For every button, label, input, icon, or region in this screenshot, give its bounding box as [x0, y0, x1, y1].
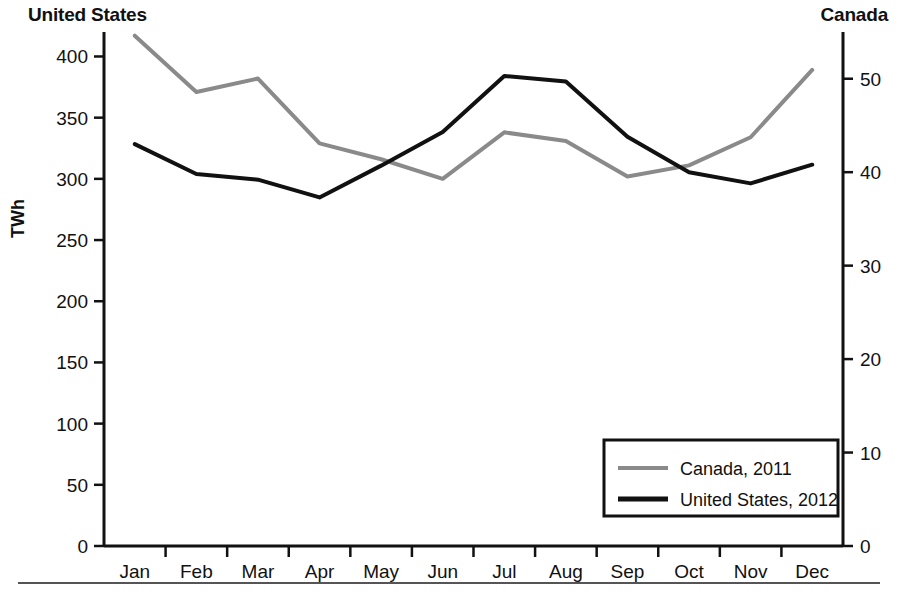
left-tick-label: 250 — [56, 230, 88, 251]
left-tick-label: 50 — [67, 475, 88, 496]
legend-label-0: Canada, 2011 — [680, 459, 792, 479]
x-axis-month-label: Feb — [180, 561, 213, 582]
x-axis-month-label: Jul — [492, 561, 516, 582]
right-tick-label: 30 — [860, 256, 881, 277]
right-tick-label: 10 — [860, 443, 881, 464]
x-axis-month-label: Jan — [119, 561, 150, 582]
x-axis-labels: JanFebMarAprMayJunJulAugSepOctNovDec — [119, 561, 829, 582]
legend-label-1: United States, 2012 — [680, 490, 838, 510]
series-line-0 — [135, 36, 812, 179]
left-tick-label: 300 — [56, 169, 88, 190]
x-axis-month-label: May — [363, 561, 399, 582]
left-tick-label: 400 — [56, 46, 88, 67]
series-line-1 — [135, 76, 812, 197]
x-axis-month-label: Apr — [305, 561, 335, 582]
left-axis-ticks: 050100150200250300350400 — [56, 46, 104, 557]
x-axis-ticks — [166, 546, 782, 557]
left-tick-label: 200 — [56, 291, 88, 312]
left-tick-label: 350 — [56, 108, 88, 129]
right-tick-label: 40 — [860, 162, 881, 183]
chart-figure: United States Canada TWh 050100150200250… — [0, 0, 898, 601]
x-axis-month-label: Nov — [734, 561, 768, 582]
x-axis-month-label: Oct — [674, 561, 704, 582]
right-axis-ticks: 01020304050 — [843, 69, 881, 557]
right-tick-label: 20 — [860, 349, 881, 370]
data-series — [135, 36, 812, 198]
left-tick-label: 0 — [77, 536, 88, 557]
x-axis-month-label: Sep — [611, 561, 645, 582]
right-tick-label: 0 — [860, 536, 871, 557]
left-tick-label: 150 — [56, 352, 88, 373]
x-axis-month-label: Dec — [795, 561, 829, 582]
right-tick-label: 50 — [860, 69, 881, 90]
x-axis-month-label: Aug — [549, 561, 583, 582]
legend: Canada, 2011United States, 2012 — [604, 440, 838, 516]
x-axis-month-label: Mar — [242, 561, 275, 582]
plot-area: 050100150200250300350400 01020304050 Jan… — [0, 0, 898, 601]
left-tick-label: 100 — [56, 414, 88, 435]
x-axis-month-label: Jun — [427, 561, 458, 582]
